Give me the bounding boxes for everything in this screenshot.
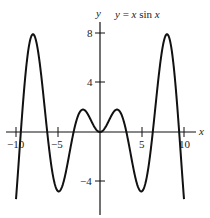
y-tick-label: 8 [87, 27, 93, 39]
chart-title: y = x sin x [114, 8, 160, 20]
x-tick-label: 5 [139, 138, 145, 150]
y-axis-label: y [95, 7, 101, 19]
chart: −10 −5 5 10 8 4 −4 x y y = x sin x [0, 0, 210, 218]
x-axis-label: x [198, 125, 204, 137]
y-tick-label: −4 [80, 175, 92, 187]
title-x2: x [154, 8, 160, 20]
x-tick-label: −5 [51, 138, 63, 150]
x-tick-label: −10 [7, 138, 25, 150]
title-sin: sin [137, 8, 155, 20]
y-tick-label: 4 [87, 76, 93, 88]
title-eq: = [120, 8, 132, 20]
